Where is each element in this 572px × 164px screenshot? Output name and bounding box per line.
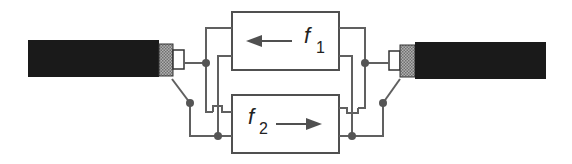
f2-subscript: 2	[259, 120, 268, 137]
diagram-canvas: f 1 f 2	[0, 0, 572, 164]
junction-dot-right-switch	[379, 99, 387, 107]
left-coax-cable	[28, 40, 184, 77]
junction-dot-left-top	[202, 59, 210, 67]
right-cable-knurl	[400, 45, 415, 77]
right-cable-jacket	[415, 42, 546, 79]
right-wiring	[339, 28, 400, 136]
right-coax-cable	[389, 42, 546, 79]
junction-dot-right-top	[361, 59, 369, 67]
junction-dot-left-switch	[186, 99, 194, 107]
left-cable-pin	[173, 50, 184, 69]
filter-box-f2: f 2	[232, 95, 339, 153]
left-wiring	[172, 28, 232, 136]
left-cable-jacket	[28, 40, 159, 77]
right-cable-pin	[389, 51, 400, 70]
junction-dot-left-bottom	[214, 132, 222, 140]
junction-dot-right-bottom	[348, 132, 356, 140]
f1-subscript: 1	[316, 39, 325, 56]
filter-box-f1: f 1	[232, 12, 339, 70]
left-cable-knurl	[159, 44, 173, 76]
